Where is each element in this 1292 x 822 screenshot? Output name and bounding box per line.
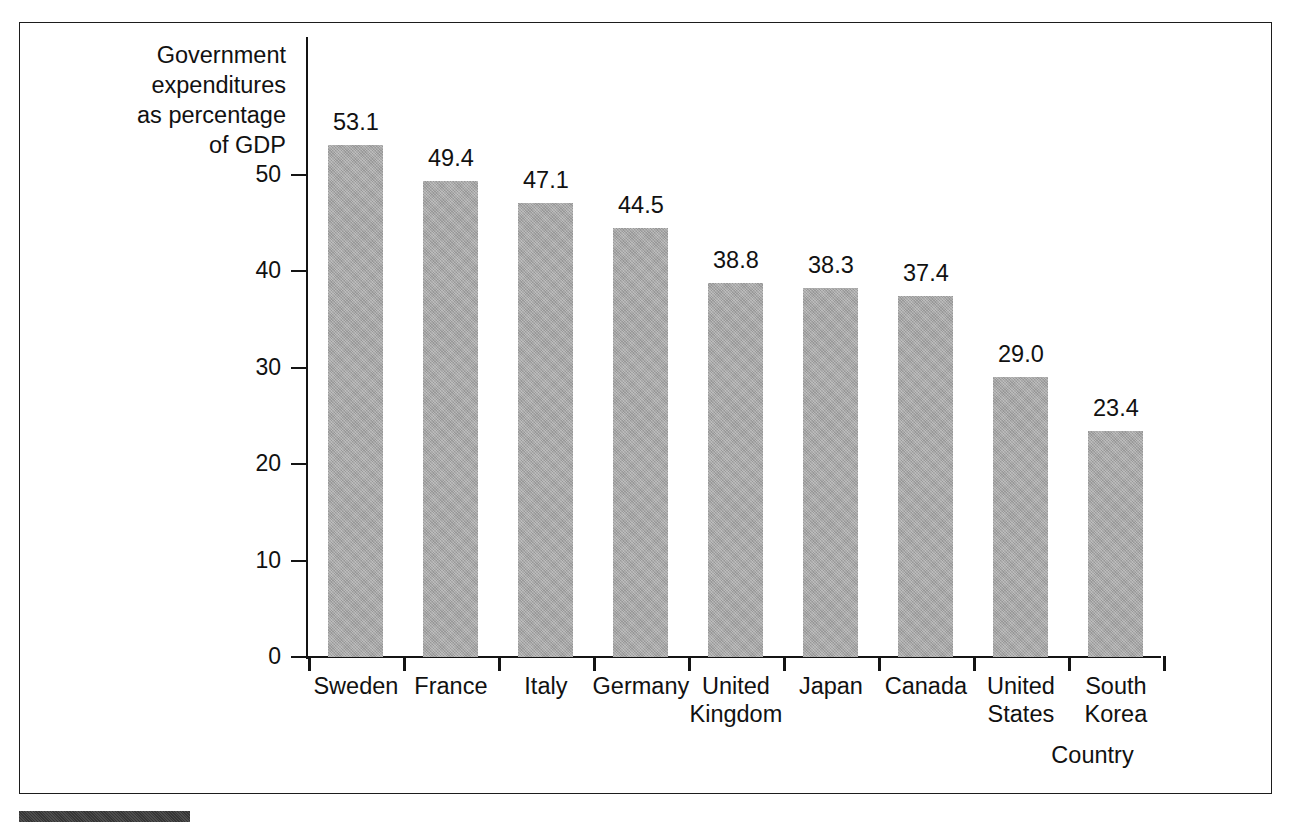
chart-frame xyxy=(19,22,1272,794)
bottom-accent-bar xyxy=(19,811,190,822)
chart-page: Government expenditures as percentage of… xyxy=(0,0,1292,822)
